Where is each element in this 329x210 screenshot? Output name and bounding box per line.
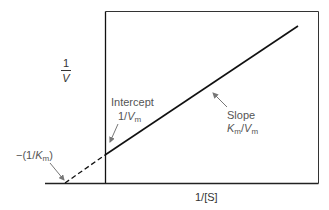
slope-title: Slope [227,109,255,121]
y-axis-label: 1 V [59,58,73,84]
slope-num-sub: m [234,127,241,136]
y-axis-label-numerator: 1 [59,58,73,69]
plot-graphics [0,0,329,210]
x-intercept-suffix: ) [49,149,53,161]
intercept-title: Intercept [111,96,154,108]
regression-line [105,26,298,155]
intercept-var: V [127,110,134,122]
slope-den-sub: m [251,127,258,136]
intercept-arrow [110,124,118,142]
intercept-prefix: 1/ [118,110,127,122]
y-axis-label-denominator: V [59,72,73,84]
slope-value: Km/Vm [227,122,258,138]
x-intercept-var: K [35,149,42,161]
intercept-sub: m [135,115,142,124]
slope-arrow [213,93,227,107]
x-intercept-arrow [50,163,64,180]
extrapolated-line [65,155,105,183]
lineweaver-burk-diagram: 1 V Intercept 1/Vm Slope Km/Vm −(1/Km) 1… [0,0,329,210]
x-intercept-prefix: −(1/ [16,149,35,161]
x-intercept-label: −(1/Km) [16,149,53,165]
x-axis-label: 1/[S] [195,191,218,203]
fraction-bar [61,70,71,71]
intercept-value: 1/Vm [118,110,141,126]
